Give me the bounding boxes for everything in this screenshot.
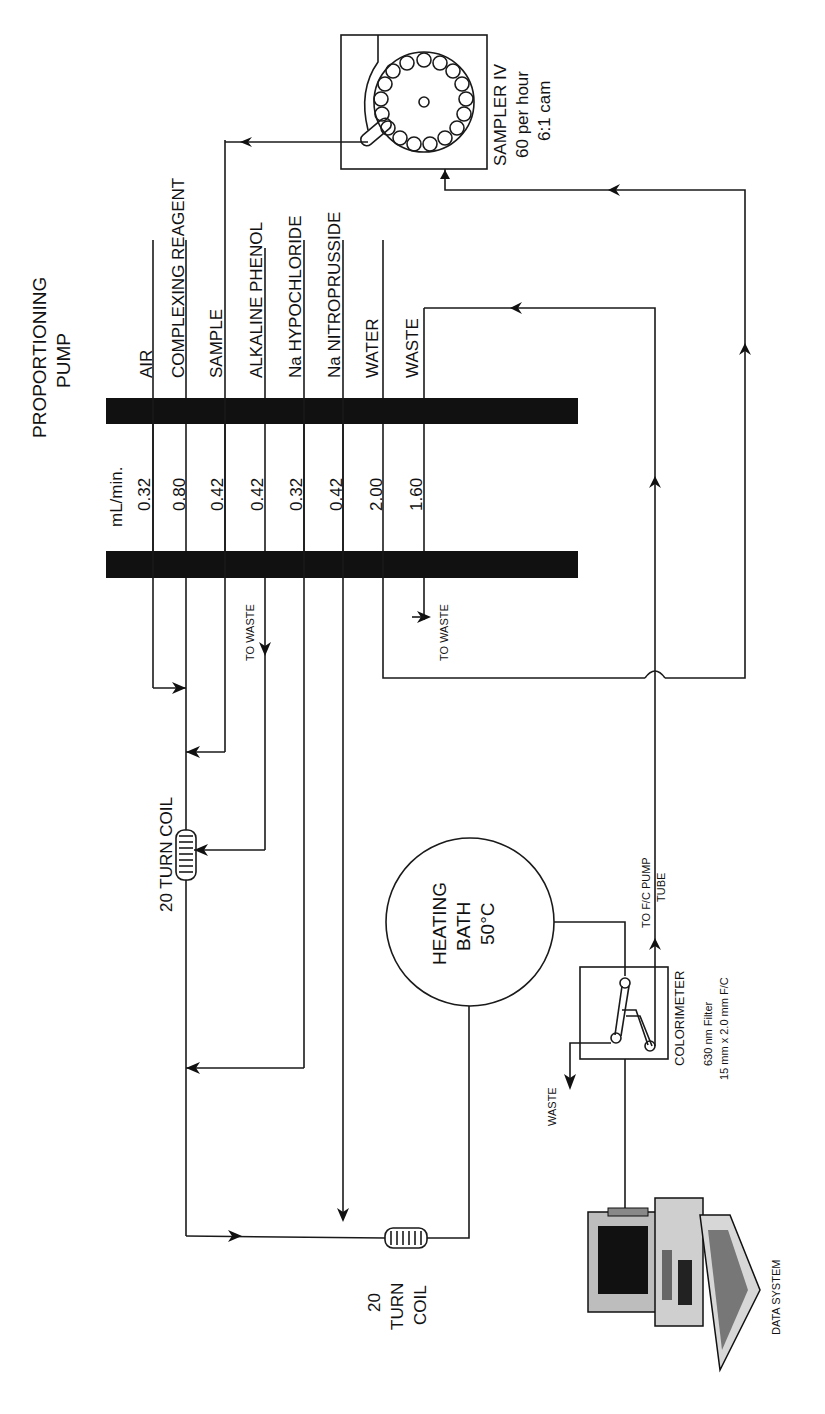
rate-na-hypochloride: 0.32 bbox=[287, 478, 306, 511]
channel-label-na-hypochloride: Na HYPOCHLORIDE bbox=[286, 216, 305, 378]
waste-label: WASTE bbox=[546, 1087, 558, 1126]
channel-label-complexing-reagent: COMPLEXING REAGENT bbox=[169, 178, 188, 378]
sampler bbox=[341, 35, 487, 169]
coil-2-label-line1: 20 bbox=[365, 1293, 384, 1312]
rate-sample: 0.42 bbox=[208, 478, 227, 511]
colorimeter bbox=[564, 967, 668, 1210]
to-waste-label-1: TO WASTE bbox=[244, 604, 256, 661]
heating-bath-line1: HEATING bbox=[429, 882, 450, 965]
channel-label-sample: SAMPLE bbox=[207, 309, 226, 378]
flow-diagram: PROPORTIONING PUMP AIR COMPLEXING REAGEN… bbox=[0, 0, 825, 1414]
channel-rates: mL/min. 0.32 0.80 0.42 0.42 0.32 0.42 2.… bbox=[107, 467, 426, 527]
pump-platen-bottom bbox=[106, 551, 578, 578]
fc-pump-label-line2: TUBE bbox=[655, 873, 667, 902]
coil-1-label: 20 TURN COIL bbox=[157, 797, 176, 912]
coil-2 bbox=[385, 1228, 427, 1248]
sampler-label-line1: SAMPLER IV bbox=[491, 63, 510, 166]
rate-waste: 1.60 bbox=[407, 478, 426, 511]
data-system-label: DATA SYSTEM bbox=[770, 1260, 782, 1335]
channel-label-water: WATER bbox=[363, 319, 382, 379]
sample-cups bbox=[374, 53, 473, 151]
coil-1 bbox=[176, 830, 196, 880]
pump-title-line2: PUMP bbox=[53, 333, 74, 388]
coil-2-label-line2: TURN bbox=[388, 1283, 407, 1330]
rate-alkaline-phenol: 0.42 bbox=[248, 478, 267, 511]
pump-platen-top bbox=[106, 398, 578, 424]
channel-label-na-nitroprusside: Na NITROPRUSSIDE bbox=[325, 212, 344, 378]
rate-air: 0.32 bbox=[135, 478, 154, 511]
to-waste-label-2: TO WASTE bbox=[438, 604, 450, 661]
channel-label-waste: WASTE bbox=[403, 318, 422, 378]
pump-title-line1: PROPORTIONING bbox=[29, 277, 50, 438]
channel-label-alkaline-phenol: ALKALINE PHENOL bbox=[247, 222, 266, 378]
coil-2-label-line3: COIL bbox=[411, 1285, 430, 1325]
sampler-label-line3: 6:1 cam bbox=[535, 81, 554, 141]
colorimeter-label: COLORIMETER bbox=[672, 971, 687, 1066]
colorimeter-spec-2: 15 mm x 2.0 mm F/C bbox=[718, 977, 730, 1080]
rate-unit: mL/min. bbox=[107, 467, 126, 527]
heating-bath-line3: 50°C bbox=[477, 903, 498, 945]
computer-icon bbox=[588, 1198, 760, 1370]
heating-bath-line2: BATH bbox=[453, 902, 474, 951]
colorimeter-spec-1: 630 nm Filter bbox=[702, 1001, 714, 1066]
fc-pump-label-line1: TO F/C PUMP bbox=[640, 857, 652, 928]
sampler-label-line2: 60 per hour bbox=[513, 71, 532, 158]
channel-labels: AIR COMPLEXING REAGENT SAMPLE ALKALINE P… bbox=[137, 178, 422, 378]
